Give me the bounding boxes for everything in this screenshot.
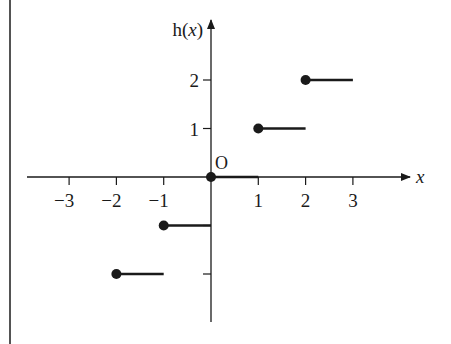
x-tick-label: 3: [348, 190, 358, 211]
x-tick-label: −2: [101, 190, 121, 211]
closed-endpoint-dot: [111, 269, 121, 279]
step-segment: [253, 124, 305, 134]
step-segment: [159, 221, 211, 231]
y-axis-label: h(x): [172, 19, 203, 41]
x-tick-label: −1: [149, 190, 169, 211]
closed-endpoint-dot: [206, 172, 216, 182]
closed-endpoint-dot: [253, 124, 263, 134]
step-segment: [111, 269, 163, 279]
axis-tick-labels: −3−2−112312: [54, 70, 358, 211]
x-axis-label: x: [415, 166, 425, 187]
step-function-graph: −3−2−112312 h(x) x O: [0, 0, 451, 344]
x-tick-label: 2: [301, 190, 311, 211]
y-tick-label: 2: [190, 70, 200, 91]
step-segment: [301, 75, 353, 85]
closed-endpoint-dot: [301, 75, 311, 85]
closed-endpoint-dot: [159, 221, 169, 231]
x-tick-label: 1: [254, 190, 264, 211]
x-tick-label: −3: [54, 190, 74, 211]
y-tick-label: 1: [190, 119, 200, 140]
step-segment: [206, 172, 258, 182]
origin-label: O: [215, 153, 228, 173]
